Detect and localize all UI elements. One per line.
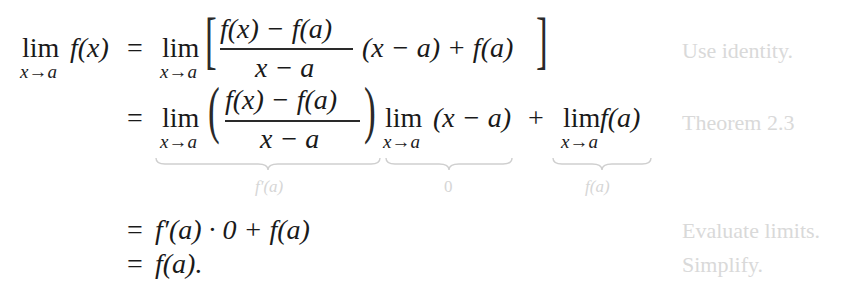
expression-tail: f(a) [600,104,640,132]
lim-label: lim [22,34,59,62]
fraction-numerator: f(x) − f(a) [220,15,332,43]
close-bracket: ] [536,8,548,72]
middle-term: (x − a) [433,104,511,132]
equals-sign: = [127,104,143,132]
equals-sign: = [127,250,143,278]
lim-label: lim [162,104,199,132]
brace-label: 0 [444,178,453,195]
lim-label: lim [385,104,422,132]
evaluated-expression: f′(a) · 0 + f(a) [155,216,310,244]
close-paren: ) [364,78,376,142]
final-expression: f(a). [155,250,202,278]
lim-subscript: x→a [160,132,197,151]
lim-subscript: x→a [383,132,420,151]
fraction-denominator: x − a [260,125,319,153]
fraction-denominator: x − a [255,54,314,82]
brace-label: f′(a) [255,178,283,195]
lim-subscript: x→a [160,62,197,81]
underbrace-icon [385,157,513,171]
open-paren: ( [208,78,220,142]
lim-subscript: x→a [561,132,598,151]
fraction-bar [220,48,353,50]
lim-subscript: x→a [20,62,57,81]
step-annotation: Use identity. [682,40,793,62]
lim-label: lim [563,104,600,132]
brace-label: f(a) [585,178,610,195]
equals-sign: = [127,34,143,62]
lhs-function: f(x) [70,34,109,62]
step-annotation: Evaluate limits. [682,220,820,242]
step-annotation: Simplify. [682,254,763,276]
fraction-bar [225,120,360,122]
fraction-numerator: f(x) − f(a) [225,86,337,114]
expression-tail: (x − a) + f(a) [362,34,513,62]
equals-sign: = [127,216,143,244]
plus-sign: + [528,104,544,132]
step-annotation: Theorem 2.3 [682,112,794,134]
underbrace-icon [552,157,652,171]
lim-label: lim [162,34,199,62]
underbrace-icon [155,157,381,171]
open-bracket: [ [205,8,217,72]
